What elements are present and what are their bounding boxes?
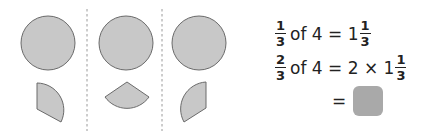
- fraction-two-thirds: 2 3: [275, 53, 286, 82]
- third-piece-2: [105, 82, 149, 108]
- whole-circle-1: [21, 16, 75, 70]
- answer-box[interactable]: [353, 86, 383, 116]
- mixed-fraction-part: 1 3: [360, 19, 371, 48]
- equals-sign: =: [332, 91, 346, 111]
- third-piece-3: [181, 82, 206, 122]
- whole-circle-3: [172, 16, 226, 70]
- fraction-one-third: 1 3: [275, 19, 286, 48]
- equation-line-1: 1 3 of 4 = 1 1 3: [275, 19, 374, 48]
- equation-line-2: 2 3 of 4 = 2 × 1 1 3: [275, 53, 409, 82]
- third-piece-1: [37, 83, 64, 122]
- whole-circle-2: [99, 16, 153, 70]
- mixed-fraction-part: 1 3: [395, 53, 406, 82]
- equation-text: of 4 = 2 × 1: [290, 58, 394, 78]
- equation-line-3: =: [331, 86, 383, 116]
- equation-text: of 4 = 1: [290, 24, 358, 44]
